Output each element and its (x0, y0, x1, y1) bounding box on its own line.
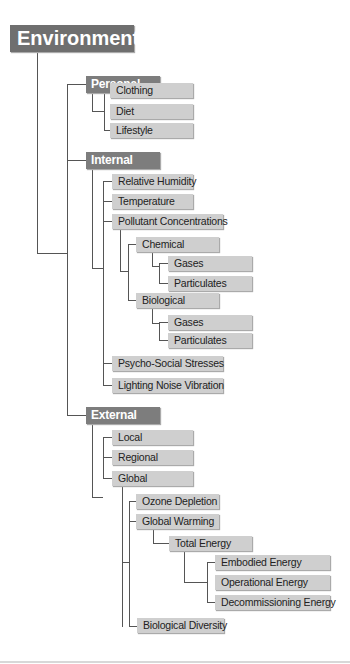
connector (104, 90, 105, 131)
connector (129, 501, 136, 502)
connector (159, 322, 168, 323)
bottom-divider (0, 661, 350, 663)
node-lifestyle: Lifestyle (110, 123, 193, 138)
connector (37, 52, 38, 254)
connector (122, 486, 123, 627)
connector (103, 385, 112, 386)
node-regional: Regional (112, 450, 193, 465)
connector (207, 562, 208, 603)
connector (103, 201, 112, 202)
node-embodied-energy: Embodied Energy (215, 555, 330, 570)
connector (37, 253, 68, 254)
connector (184, 551, 185, 583)
node-clothing: Clothing (110, 83, 193, 98)
connector (67, 415, 86, 416)
connector (128, 300, 136, 301)
connector (152, 307, 153, 324)
connector (184, 582, 208, 583)
node-biological-particulates: Particulates (168, 333, 252, 348)
node-chemical-gases: Gases (168, 256, 252, 271)
node-chemical: Chemical (136, 237, 219, 252)
connector (159, 263, 168, 264)
connector (103, 457, 112, 458)
connector (120, 229, 121, 272)
node-biological: Biological (136, 293, 219, 308)
node-pollutant-concentrations: Pollutant Concentrations (112, 214, 223, 229)
connector (92, 424, 93, 498)
node-relative-humidity: Relative Humidity (112, 174, 193, 189)
connector (103, 221, 112, 222)
connector (92, 111, 104, 112)
node-operational-energy: Operational Energy (215, 575, 330, 590)
connector (128, 244, 129, 301)
connector (159, 263, 160, 284)
connector (159, 340, 168, 341)
node-internal: Internal (86, 152, 160, 169)
node-diet: Diet (110, 104, 193, 119)
connector (159, 283, 168, 284)
node-global: Global (112, 471, 193, 486)
connector (92, 497, 103, 498)
connector (103, 478, 112, 479)
node-psycho-social-stresses: Psycho-Social Stresses (112, 356, 223, 371)
node-temperature: Temperature (112, 194, 193, 209)
connector (153, 543, 169, 544)
connector (67, 84, 68, 416)
connector (120, 271, 128, 272)
node-biological-gases: Gases (168, 315, 252, 330)
connector (128, 244, 136, 245)
connector (129, 626, 137, 627)
connector (152, 251, 153, 267)
connector (122, 562, 129, 563)
connector (207, 562, 215, 563)
connector (103, 181, 112, 182)
node-local: Local (112, 430, 193, 445)
connector (103, 181, 104, 386)
connector (67, 160, 86, 161)
connector (103, 437, 112, 438)
connector (153, 529, 154, 544)
node-chemical-particulates: Particulates (168, 276, 252, 291)
connector (152, 266, 159, 267)
node-lighting-noise-vibration: Lighting Noise Vibration (112, 378, 223, 393)
connector (92, 93, 93, 112)
connector (92, 268, 103, 269)
node-environment: Environment (10, 25, 134, 52)
connector (129, 521, 136, 522)
node-ozone-depletion: Ozone Depletion (136, 494, 219, 509)
node-external: External (86, 407, 160, 424)
connector (129, 501, 130, 627)
node-decommissioning-energy: Decommissioning Energy (215, 595, 330, 610)
connector (159, 322, 160, 341)
connector (92, 169, 93, 269)
node-biological-diversity: Biological Diversity (137, 618, 224, 633)
connector (152, 323, 159, 324)
connector (103, 363, 112, 364)
node-total-energy: Total Energy (169, 536, 252, 551)
connector (67, 84, 86, 85)
node-global-warming: Global Warming (136, 514, 219, 529)
connector (207, 602, 215, 603)
